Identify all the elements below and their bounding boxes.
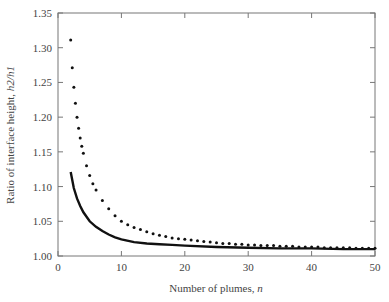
data-point [114,214,117,217]
data-point [85,164,88,167]
data-point [177,237,180,240]
data-point [72,86,75,89]
x-tick-label: 10 [116,261,128,273]
data-point [221,242,224,245]
data-point [95,189,98,192]
data-point [126,223,129,226]
x-axis-ticks: 01020304050 [55,13,381,273]
data-point [69,39,72,42]
data-point [139,228,142,231]
y-tick-label: 1.05 [33,215,53,227]
x-tick-label: 20 [179,261,191,273]
data-point [107,207,110,210]
data-point [71,66,74,69]
data-point [234,243,237,246]
x-axis-label: Number of plumes, n [169,282,263,294]
data-point [171,236,174,239]
data-point [101,199,104,202]
data-point [80,145,83,148]
data-point [145,230,148,233]
y-tick-label: 1.15 [33,146,53,158]
data-point [183,238,186,241]
solid-curve [71,172,375,249]
data-point [120,220,123,223]
plot-area [58,13,375,256]
x-axis-label-text: Number of plumes, [169,282,257,294]
y-tick-label: 1.20 [33,111,53,123]
data-point [215,241,218,244]
data-point [266,244,269,247]
data-point [259,244,262,247]
data-point [228,242,231,245]
data-point [253,243,256,246]
data-point [133,226,136,229]
data-point [88,174,91,177]
data-point [77,127,80,130]
data-point [209,241,212,244]
y-tick-label: 1.00 [33,250,53,262]
data-point [152,232,155,235]
x-tick-label: 50 [370,261,382,273]
data-series [69,39,376,250]
data-point [240,243,243,246]
data-point [247,243,250,246]
y-axis-ticks: 1.001.051.101.151.201.251.301.35 [33,7,375,262]
data-point [91,182,94,185]
chart: 1.001.051.101.151.201.251.301.35 0102030… [0,0,389,302]
y-tick-label: 1.10 [33,181,53,193]
x-tick-label: 0 [55,261,61,273]
y-tick-label: 1.25 [33,76,53,88]
y-tick-label: 1.35 [33,7,53,19]
x-tick-label: 40 [306,261,318,273]
data-point [164,235,167,238]
x-tick-label: 30 [243,261,255,273]
data-point [82,152,85,155]
data-point [272,244,275,247]
data-point [79,136,82,139]
data-point [76,116,79,119]
data-point [202,240,205,243]
data-point [190,239,193,242]
data-point [196,239,199,242]
data-point [74,102,77,105]
data-point [158,234,161,237]
y-tick-label: 1.30 [33,42,53,54]
y-axis-label: Ratio of interface height, h2/h1 [4,66,16,204]
